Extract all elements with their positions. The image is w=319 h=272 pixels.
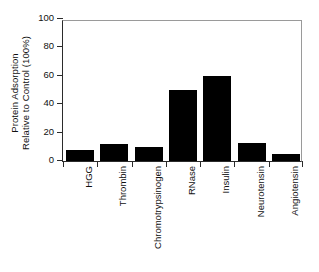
bar [272, 154, 300, 161]
y-axis-tick: 40 [57, 103, 63, 104]
bar [100, 144, 128, 161]
x-axis-category-label: Neurotensin [255, 166, 266, 217]
y-axis-tick-label: 0 [49, 154, 54, 165]
x-axis-category-label: RNase [186, 166, 197, 195]
bar-chart-figure: Protein Adsorption Relative to Control (… [0, 0, 319, 272]
x-axis-tick [302, 161, 303, 167]
y-axis-tick-label: 60 [43, 69, 54, 80]
x-axis-category-label: HGG [83, 166, 94, 188]
bar [238, 143, 266, 161]
x-axis-category-label: Angiotensin [289, 166, 300, 216]
y-axis-tick: 100 [57, 18, 63, 19]
y-axis-tick-label: 80 [43, 40, 54, 51]
y-axis-tick-label: 20 [43, 126, 54, 137]
bar [203, 76, 231, 161]
bar [135, 147, 163, 161]
y-axis-tick-label: 100 [38, 12, 54, 23]
y-axis-title-line2: Relative to Control (100%) [20, 36, 32, 150]
x-axis-tick-labels: HGGThrombinChromotrypsinogenRNaseInsulin… [62, 166, 302, 266]
y-axis-tick: 60 [57, 75, 63, 76]
x-axis-category-label: Chromotrypsinogen [152, 166, 163, 249]
y-axis-title-line1: Protein Adsorption [9, 53, 21, 132]
y-axis-title: Protein Adsorption Relative to Control (… [0, 0, 40, 185]
bar [66, 150, 94, 161]
y-axis-tick: 20 [57, 132, 63, 133]
x-axis-category-label: Insulin [220, 166, 231, 193]
x-axis-category-label: Thrombin [117, 166, 128, 206]
bar [169, 90, 197, 161]
plot-area: 020406080100 [62, 20, 302, 162]
y-axis-tick: 80 [57, 46, 63, 47]
y-axis-tick-label: 40 [43, 97, 54, 108]
